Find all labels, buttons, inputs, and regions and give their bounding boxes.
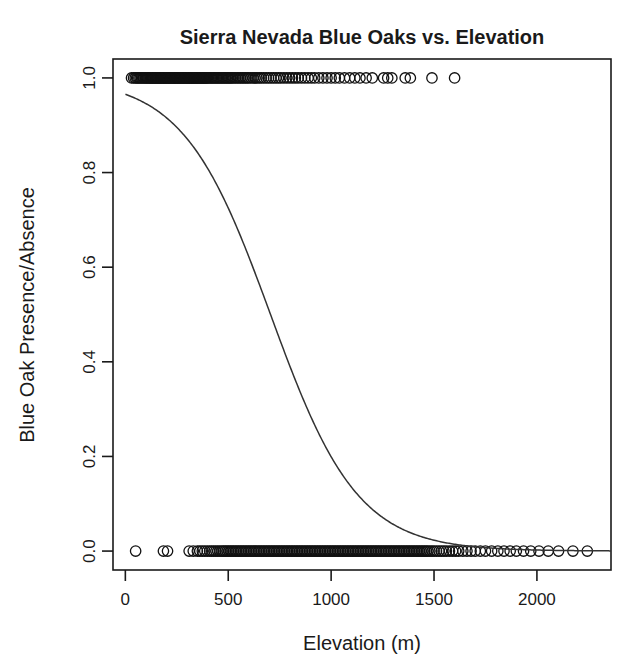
- chart-title: Sierra Nevada Blue Oaks vs. Elevation: [180, 26, 545, 48]
- data-points-absence: [130, 546, 592, 556]
- chart-page: Sierra Nevada Blue Oaks vs. Elevation El…: [0, 0, 633, 671]
- x-axis-ticks: 0500100015002000: [121, 570, 556, 609]
- data-point: [499, 546, 509, 556]
- x-tick-label: 2000: [518, 590, 556, 609]
- y-tick-label: 0.2: [80, 445, 99, 469]
- logistic-fit-curve: [125, 94, 611, 551]
- x-tick-label: 1500: [415, 590, 453, 609]
- y-axis-label: Blue Oak Presence/Absence: [16, 187, 38, 443]
- y-tick-label: 0.4: [80, 350, 99, 374]
- x-axis-label: Elevation (m): [303, 632, 421, 654]
- data-point: [427, 73, 437, 83]
- data-point: [505, 546, 515, 556]
- x-tick-label: 0: [121, 590, 130, 609]
- data-point: [130, 546, 140, 556]
- scatter-plot-figure: Sierra Nevada Blue Oaks vs. Elevation El…: [0, 0, 633, 671]
- data-points-presence: [126, 73, 459, 83]
- y-tick-label: 1.0: [80, 66, 99, 90]
- data-point: [449, 73, 459, 83]
- y-tick-label: 0.6: [80, 255, 99, 279]
- data-point: [361, 73, 371, 83]
- x-tick-label: 500: [214, 590, 242, 609]
- x-tick-label: 1000: [312, 590, 350, 609]
- y-tick-label: 0.8: [80, 161, 99, 185]
- plot-frame: [113, 59, 611, 570]
- y-axis-ticks: 0.00.20.40.60.81.0: [80, 66, 113, 563]
- y-tick-label: 0.0: [80, 539, 99, 563]
- data-point: [367, 73, 377, 83]
- data-point: [493, 546, 503, 556]
